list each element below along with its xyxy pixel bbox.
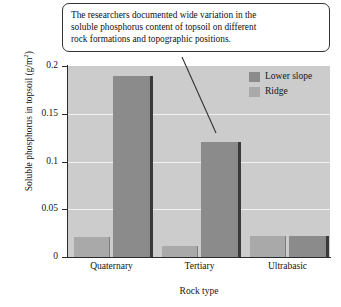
legend-label-ridge: Ridge <box>265 87 288 97</box>
y-tick-mark-0.2 <box>62 66 68 67</box>
y-tick-label-0.1: 0.1 <box>46 157 58 167</box>
y-axis-title: Soluble phosphorus in topsoil (g/m2) <box>22 21 34 221</box>
y-axis-title-exponent: 2 <box>22 54 30 58</box>
gridline-0.05 <box>68 209 330 210</box>
callout-line-3: rock formations and topographic position… <box>71 33 322 45</box>
gridline-0.10 <box>68 162 330 163</box>
legend-swatch-icon-lower-slope <box>249 72 260 82</box>
y-tick-label-0.2: 0.2 <box>46 61 58 71</box>
callout-leader-line <box>180 55 220 135</box>
legend-item-lower-slope: Lower slope <box>249 70 312 83</box>
bar-quaternary-lower-slope <box>113 76 153 258</box>
y-tick-label-0.15: 0.15 <box>41 109 58 119</box>
y-tick-mark-0.1 <box>62 162 68 163</box>
y-tick-mark-0.05 <box>62 209 68 210</box>
x-tick-label-ultrabasic: Ultrabasic <box>244 261 331 271</box>
x-tick-label-tertiary: Tertiary <box>156 261 243 271</box>
callout-annotation-box: The researchers documented wide variatio… <box>62 3 330 52</box>
y-axis-title-close-paren: ) <box>24 51 34 54</box>
bar-quaternary-ridge <box>74 237 110 257</box>
chart-legend: Lower slope Ridge <box>249 70 312 100</box>
y-tick-label-0.05: 0.05 <box>41 204 58 214</box>
x-tick-label-quaternary: Quaternary <box>68 261 155 271</box>
bar-tertiary-ridge <box>162 246 198 258</box>
callout-line-1: The researchers documented wide variatio… <box>71 9 322 21</box>
callout-line-2: soluble phosphorus content of topsoil on… <box>71 21 322 33</box>
legend-label-lower-slope: Lower slope <box>265 72 312 82</box>
bar-ultrabasic-lower-slope <box>289 236 329 257</box>
chart-figure: 0.2 0.15 0.1 0.05 0 Soluble phosphorus i… <box>0 0 341 307</box>
legend-item-ridge: Ridge <box>249 85 312 98</box>
bar-tertiary-lower-slope <box>201 142 241 257</box>
y-tick-label-0: 0 <box>53 252 58 262</box>
y-axis-title-text: Soluble phosphorus in topsoil (g/m <box>24 58 34 192</box>
y-tick-mark-0 <box>62 257 68 258</box>
x-axis-line <box>67 257 331 258</box>
legend-swatch-icon-ridge <box>249 87 260 97</box>
y-tick-mark-0.15 <box>62 114 68 115</box>
bar-ultrabasic-ridge <box>250 236 286 257</box>
x-axis-title: Rock type <box>68 286 330 296</box>
